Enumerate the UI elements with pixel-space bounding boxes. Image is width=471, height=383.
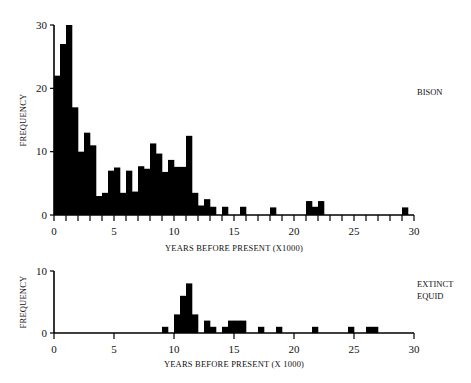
x-tick-label: 25 — [349, 343, 361, 355]
histogram-bar — [150, 143, 156, 215]
y-tick-label: 0 — [42, 327, 48, 339]
histogram-bar — [102, 193, 108, 215]
x-tick-label: 10 — [169, 225, 181, 237]
histogram-figure: 0102030051015202530 FREQUENCY YEARS BEFO… — [0, 0, 471, 383]
histogram-bar — [180, 167, 186, 215]
x-tick-label: 15 — [229, 225, 241, 237]
x-tick-label: 5 — [111, 225, 117, 237]
histogram-bar — [54, 76, 60, 215]
histogram-bar — [186, 283, 192, 333]
x-tick-label: 10 — [169, 343, 181, 355]
histogram-bar — [198, 206, 204, 216]
histogram-bar — [174, 314, 180, 333]
histogram-bar — [402, 207, 408, 215]
x-tick-label: 30 — [409, 225, 421, 237]
histogram-bar — [348, 327, 354, 333]
histogram-bar — [144, 169, 150, 215]
x-tick-label: 20 — [289, 225, 301, 237]
y-tick-label: 10 — [36, 265, 48, 277]
histogram-bar — [114, 168, 120, 216]
histogram-bar — [66, 25, 72, 215]
y-tick-label: 0 — [42, 209, 48, 221]
histogram-bar — [78, 152, 84, 215]
equid-x-axis-title: YEARS BEFORE PRESENT (X 1000) — [164, 359, 304, 369]
histogram-bar — [258, 327, 264, 333]
histogram-bar — [312, 207, 318, 215]
equid-histogram: 010051015202530 FREQUENCY YEARS BEFORE P… — [18, 265, 454, 370]
bison-histogram: 0102030051015202530 FREQUENCY YEARS BEFO… — [18, 19, 443, 254]
histogram-bar — [312, 327, 318, 333]
histogram-bar — [240, 207, 246, 215]
y-tick-label: 10 — [36, 145, 48, 157]
equid-bars — [162, 283, 378, 333]
histogram-bar — [240, 321, 246, 333]
histogram-bar — [162, 327, 168, 333]
histogram-bar — [174, 167, 180, 215]
histogram-bar — [60, 44, 66, 215]
histogram-bar — [162, 172, 168, 215]
histogram-bar — [192, 314, 198, 333]
histogram-bar — [372, 327, 378, 333]
histogram-bar — [186, 136, 192, 215]
histogram-bar — [108, 171, 114, 215]
bison-y-axis-title: FREQUENCY — [18, 94, 28, 147]
histogram-bar — [84, 133, 90, 215]
histogram-bar — [228, 321, 234, 333]
x-tick-label: 15 — [229, 343, 241, 355]
y-tick-label: 20 — [36, 82, 48, 94]
bison-series-label: BISON — [417, 87, 443, 97]
x-tick-label: 0 — [51, 343, 57, 355]
histogram-bar — [210, 207, 216, 215]
equid-axes: 010051015202530 — [36, 265, 420, 356]
histogram-bar — [192, 193, 198, 215]
histogram-bar — [276, 327, 282, 333]
histogram-bar — [126, 171, 132, 215]
x-tick-label: 5 — [111, 343, 117, 355]
histogram-bar — [204, 321, 210, 333]
histogram-bar — [132, 192, 138, 215]
histogram-bar — [234, 321, 240, 333]
histogram-bar — [90, 145, 96, 215]
bison-bars — [54, 25, 408, 215]
histogram-bar — [270, 207, 276, 215]
histogram-bar — [306, 201, 312, 215]
histogram-bar — [222, 207, 228, 215]
histogram-bar — [156, 154, 162, 215]
histogram-bar — [318, 201, 324, 215]
bison-x-axis-title: YEARS BEFORE PRESENT (X1000) — [165, 243, 303, 253]
x-tick-label: 20 — [289, 343, 301, 355]
equid-series-label-line2: EQUID — [417, 291, 443, 301]
histogram-bar — [204, 199, 210, 215]
histogram-bar — [180, 296, 186, 333]
histogram-bar — [96, 196, 102, 215]
histogram-bar — [120, 193, 126, 215]
histogram-bar — [366, 327, 372, 333]
equid-y-axis-title: FREQUENCY — [18, 276, 28, 329]
equid-series-label-line1: EXTINCT — [417, 279, 454, 289]
histogram-bar — [222, 327, 228, 333]
histogram-bar — [210, 327, 216, 333]
x-tick-label: 30 — [409, 343, 421, 355]
histogram-bar — [138, 166, 144, 215]
x-tick-label: 0 — [51, 225, 57, 237]
x-tick-label: 25 — [349, 225, 361, 237]
y-tick-label: 30 — [36, 19, 48, 31]
histogram-bar — [72, 107, 78, 215]
histogram-bar — [168, 160, 174, 215]
